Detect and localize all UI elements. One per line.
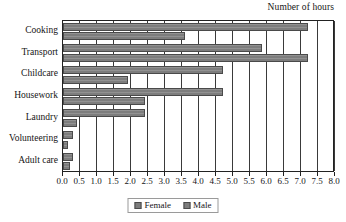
x-tick-label: 3.0 <box>158 176 169 186</box>
category-label: Transport <box>0 47 58 57</box>
x-tick-label: 6.5 <box>277 176 288 186</box>
bar-female <box>63 88 223 96</box>
legend-item[interactable]: Male <box>183 200 212 210</box>
bar-row <box>63 151 333 173</box>
bar-row <box>63 21 333 43</box>
bar-male <box>63 32 185 40</box>
x-tick-label: 5.5 <box>243 176 254 186</box>
plot-area <box>62 20 334 172</box>
bar-male <box>63 76 128 84</box>
x-tick-label: 8.0 <box>328 176 339 186</box>
chart-title: Number of hours <box>268 2 334 12</box>
bar-rows <box>63 21 333 171</box>
x-tick-label: 2.5 <box>141 176 152 186</box>
bar-row <box>63 108 333 130</box>
category-label: Childcare <box>0 68 58 78</box>
legend-label: Male <box>193 200 212 210</box>
bar-female <box>63 66 223 74</box>
x-tick-label: 5.0 <box>226 176 237 186</box>
bar-row <box>63 86 333 108</box>
bar-female <box>63 131 73 139</box>
bar-male <box>63 97 145 105</box>
x-tick-label: 0.5 <box>73 176 84 186</box>
x-tick-label: 6.0 <box>260 176 271 186</box>
x-tick-label: 7.5 <box>311 176 322 186</box>
x-tick-label: 1.5 <box>107 176 118 186</box>
bar-male <box>63 119 77 127</box>
x-tick-label: 3.5 <box>175 176 186 186</box>
category-label: Volunteering <box>0 133 58 143</box>
bar-row <box>63 43 333 65</box>
category-label: Laundry <box>0 112 58 122</box>
x-tick-label: 4.5 <box>209 176 220 186</box>
bar-row <box>63 64 333 86</box>
x-axis-tick-labels: 0.00.51.01.52.02.53.03.54.04.55.05.56.06… <box>62 176 334 190</box>
chart-legend: FemaleMale <box>128 198 219 213</box>
bar-row <box>63 130 333 152</box>
bar-female <box>63 109 145 117</box>
bar-female <box>63 153 73 161</box>
category-label: Housework <box>0 90 58 100</box>
legend-label: Female <box>145 200 172 210</box>
gridline <box>334 21 335 171</box>
category-axis-labels: CookingTransportChildcareHouseworkLaundr… <box>0 20 58 172</box>
x-tick-label: 7.0 <box>294 176 305 186</box>
x-tick-label: 1.0 <box>90 176 101 186</box>
legend-item[interactable]: Female <box>135 200 172 210</box>
legend-swatch-icon <box>135 202 142 209</box>
legend-swatch-icon <box>183 202 190 209</box>
x-tick-label: 2.0 <box>124 176 135 186</box>
category-label: Adult care <box>0 155 58 165</box>
x-tick-label: 0.0 <box>56 176 67 186</box>
bar-female <box>63 44 262 52</box>
bar-female <box>63 23 308 31</box>
x-tick-label: 4.0 <box>192 176 203 186</box>
bar-male <box>63 141 68 149</box>
bar-male <box>63 162 70 170</box>
bar-chart: Number of hours CookingTransportChildcar… <box>0 0 346 222</box>
category-label: Cooking <box>0 25 58 35</box>
bar-male <box>63 54 308 62</box>
